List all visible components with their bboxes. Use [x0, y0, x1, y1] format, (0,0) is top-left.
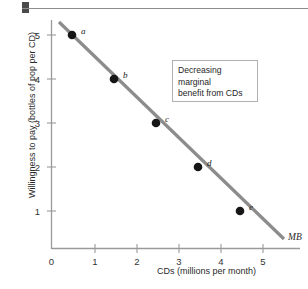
y-ticklabel-4: 4 — [35, 74, 40, 85]
chart-plot-area: 5 4 3 2 1 0 1 2 3 4 5 a b c d e — [0, 0, 308, 289]
y-ticklabel-1: 1 — [35, 206, 40, 217]
data-point-label-b: b — [123, 70, 128, 80]
y-ticklabel-2: 2 — [35, 162, 40, 173]
data-point-label-c: c — [165, 114, 169, 124]
x-ticklabel-2: 2 — [134, 256, 139, 267]
curve-label-mb: MB — [287, 232, 302, 242]
data-point-e — [236, 207, 245, 216]
chart-svg: 5 4 3 2 1 0 1 2 3 4 5 a b c d e — [0, 0, 308, 289]
annotation-line-1: Decreasing — [178, 65, 257, 77]
marginal-benefit-chart-figure: 5 4 3 2 1 0 1 2 3 4 5 a b c d e — [0, 0, 308, 289]
annotation-line-3: benefit from CDs — [178, 88, 257, 100]
data-point-label-a: a — [81, 26, 86, 36]
y-ticklabel-3: 3 — [35, 118, 40, 129]
annotation-line-2: marginal — [178, 77, 257, 89]
y-ticklabel-5: 5 — [35, 30, 40, 41]
data-point-b — [110, 75, 119, 84]
data-point-label-d: d — [207, 158, 212, 168]
data-point-label-e: e — [249, 202, 253, 212]
x-axis-title: CDs (millions per month) — [157, 266, 256, 276]
data-point-a — [68, 31, 77, 40]
data-point-c — [152, 119, 161, 128]
x-ticklabel-5: 5 — [260, 256, 265, 267]
x-ticklabel-0: 0 — [49, 256, 54, 267]
data-point-d — [194, 163, 203, 172]
decreasing-marginal-benefit-box: Decreasing marginal benefit from CDs — [172, 60, 258, 102]
x-ticklabel-1: 1 — [92, 256, 97, 267]
